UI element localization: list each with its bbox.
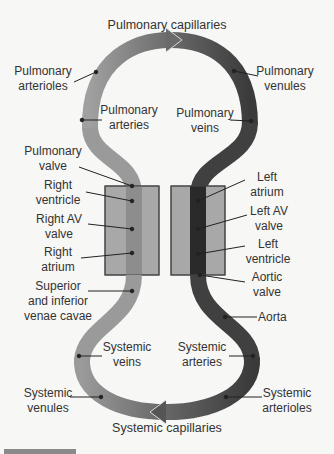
label-left-atrium: Left atrium — [244, 170, 290, 200]
label-systemic-venules: Systemic venules — [20, 386, 76, 416]
label-systemic-arterioles: Systemic arterioles — [256, 386, 318, 416]
label-pulmonary-venules: Pulmonary venules — [252, 64, 318, 94]
label-pulmonary-arteries: Pulmonary arteries — [98, 103, 160, 133]
label-pulmonary-valve: Pulmonary valve — [20, 144, 86, 174]
label-systemic-arteries: Systemic arteries — [174, 340, 230, 370]
label-right-atrium: Right atrium — [30, 245, 86, 275]
label-pulmonary-arterioles: Pulmonary arterioles — [10, 64, 76, 94]
label-pulmonary-veins: Pulmonary veins — [174, 106, 236, 136]
pulmonary-capillaries-label: Pulmonary capillaries — [102, 18, 232, 33]
label-aortic-valve: Aortic valve — [242, 270, 292, 300]
label-right-ventricle: Right ventricle — [30, 178, 86, 208]
label-venae-cavae: Superior and inferior venae cavae — [20, 279, 96, 324]
circulation-diagram: Pulmonary capillaries Systemic capillari… — [0, 0, 334, 454]
label-left-ventricle: Left ventricle — [240, 237, 296, 267]
systemic-capillaries-label: Systemic capillaries — [102, 421, 232, 436]
label-aorta: Aorta — [258, 310, 298, 325]
label-left-av-valve: Left AV valve — [244, 204, 294, 234]
left-tube-upper — [90, 128, 134, 195]
label-right-av-valve: Right AV valve — [30, 212, 88, 242]
label-systemic-veins: Systemic veins — [100, 340, 154, 370]
corner-bar — [4, 449, 76, 454]
